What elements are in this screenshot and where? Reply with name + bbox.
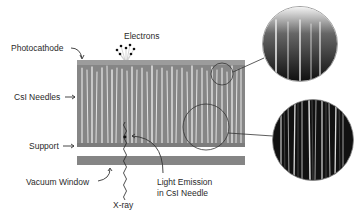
- csi-needles-label: CsI Needles: [14, 92, 60, 102]
- photocathode-layer: [77, 60, 245, 65]
- electron-icon: [130, 53, 133, 56]
- light-emission-dot-icon: [124, 136, 127, 139]
- electron-icon: [125, 47, 128, 50]
- electron-icon: [119, 53, 122, 56]
- electrons-label: Electrons: [124, 31, 159, 41]
- electron-icon: [120, 45, 123, 48]
- vacuum-window-label: Vacuum Window: [26, 177, 89, 187]
- light-emission-label-line1: Light Emission: [157, 177, 212, 187]
- magnified-needle-tips: [262, 7, 338, 84]
- light-emission-label-line2: in CsI Needle: [157, 188, 208, 198]
- electron-icon: [129, 44, 132, 47]
- support-label: Support: [29, 141, 59, 151]
- electron-icon: [116, 49, 119, 52]
- xray-label: X-ray: [113, 200, 133, 210]
- electron-icon: [133, 48, 136, 51]
- photocathode-label: Photocathode: [11, 43, 63, 53]
- electron-emission: [116, 44, 136, 60]
- csi-needle-layer: [77, 63, 245, 146]
- magnified-needle-bodies: [273, 100, 354, 181]
